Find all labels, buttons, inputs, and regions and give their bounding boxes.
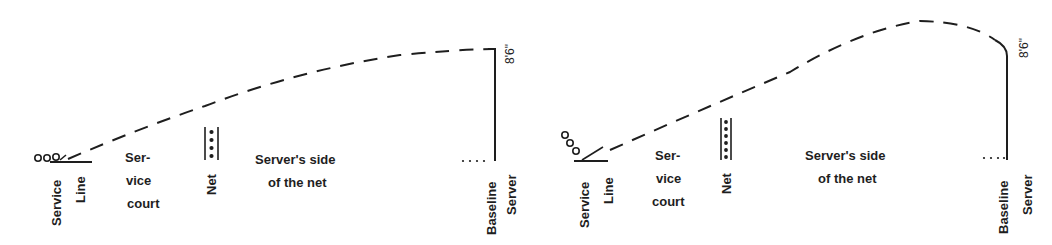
left-diagram xyxy=(35,49,496,162)
left-line-label: Line xyxy=(74,176,88,203)
left-service-court-label-3: court xyxy=(127,196,160,212)
ball-bounce-icon xyxy=(35,154,66,161)
left-service-court-label-2: vice xyxy=(126,173,151,189)
right-baseline-label: Baseline xyxy=(997,181,1011,234)
right-server-label: Server xyxy=(1021,175,1035,215)
left-height-dimension: 8'6" xyxy=(503,44,517,64)
left-service-court-label-1: Ser- xyxy=(125,150,150,166)
left-net-label: Net xyxy=(205,174,219,195)
right-servers-side-label-2: of the net xyxy=(818,171,877,187)
right-service-court-label-2: vice xyxy=(656,171,681,187)
right-service-court-label-3: court xyxy=(652,194,685,210)
right-line-label: Line xyxy=(602,177,616,204)
right-service-court-label-1: Ser- xyxy=(655,148,680,164)
right-net-label: Net xyxy=(720,173,734,194)
right-height-dimension: 8'6" xyxy=(1017,38,1031,58)
left-baseline-label: Baseline xyxy=(485,182,499,235)
left-server-label: Server xyxy=(505,175,519,215)
net-icon xyxy=(205,127,218,160)
server-height-line xyxy=(995,40,1007,160)
left-servers-side-label-1: Server's side xyxy=(255,152,335,168)
right-servers-side-label-1: Server's side xyxy=(805,148,885,164)
right-service-label: Service xyxy=(578,182,592,228)
baseline-dots xyxy=(462,160,485,162)
left-servers-side-label-2: of the net xyxy=(268,175,327,191)
left-service-label: Service xyxy=(50,180,64,226)
ball-bounce-icon xyxy=(562,132,603,160)
ball-trajectory xyxy=(68,49,492,159)
baseline-dots xyxy=(983,157,1005,159)
right-diagram xyxy=(562,21,1007,161)
ball-trajectory xyxy=(610,21,995,150)
net-icon xyxy=(721,118,731,160)
